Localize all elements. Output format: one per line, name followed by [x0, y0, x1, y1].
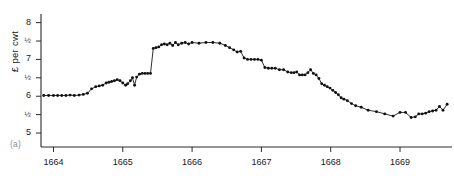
- data-point: [232, 48, 235, 51]
- data-point: [224, 44, 227, 47]
- data-point: [290, 71, 293, 74]
- y-tick-label: 8: [17, 18, 31, 27]
- data-point: [263, 66, 266, 69]
- data-point: [295, 70, 298, 73]
- data-point: [101, 84, 104, 87]
- data-point: [205, 41, 208, 44]
- data-point: [86, 92, 89, 95]
- series-line: [44, 42, 447, 117]
- x-tick-label: 1666: [172, 158, 212, 167]
- data-point: [270, 67, 273, 70]
- data-point: [133, 84, 136, 87]
- data-point: [116, 78, 119, 81]
- data-point: [331, 89, 334, 92]
- data-point: [65, 94, 68, 97]
- data-point: [293, 71, 296, 74]
- data-point: [392, 115, 395, 118]
- data-point: [47, 94, 50, 97]
- x-tick-label: 1665: [103, 158, 143, 167]
- data-point: [446, 103, 449, 106]
- data-point: [90, 87, 93, 90]
- data-point: [350, 102, 353, 105]
- data-point: [286, 70, 289, 73]
- data-point: [274, 67, 277, 70]
- data-point: [94, 85, 97, 88]
- y-tick-label: ½: [17, 37, 31, 45]
- data-point: [228, 46, 231, 49]
- data-point: [256, 58, 259, 61]
- data-point: [52, 94, 55, 97]
- data-point: [187, 43, 190, 46]
- data-point: [428, 110, 431, 113]
- data-point: [126, 82, 129, 85]
- data-point: [141, 72, 144, 75]
- data-point: [119, 79, 122, 82]
- data-point: [144, 72, 147, 75]
- data-point: [253, 58, 256, 61]
- data-point: [73, 94, 76, 97]
- x-tick-label: 1667: [241, 158, 281, 167]
- data-point: [301, 73, 304, 76]
- data-point: [82, 93, 85, 96]
- data-point: [113, 79, 116, 82]
- data-point: [177, 43, 180, 46]
- data-point: [131, 76, 134, 79]
- data-point: [360, 106, 363, 109]
- data-point: [404, 111, 407, 114]
- data-point: [417, 112, 420, 115]
- data-point: [218, 42, 221, 45]
- line-chart-plot: [0, 0, 454, 183]
- data-point: [69, 94, 72, 97]
- data-point: [421, 112, 424, 115]
- data-point: [146, 72, 149, 75]
- data-point: [168, 42, 171, 45]
- data-point: [198, 42, 201, 45]
- data-point: [282, 68, 285, 71]
- data-point: [163, 43, 166, 46]
- x-tick-label: 1668: [311, 158, 351, 167]
- data-point: [435, 109, 438, 112]
- data-point: [326, 85, 329, 88]
- y-tick-label: 5: [17, 128, 31, 137]
- data-point: [320, 82, 323, 85]
- data-point: [121, 82, 124, 85]
- data-point: [346, 99, 349, 102]
- data-point: [367, 109, 370, 112]
- data-point: [211, 41, 214, 44]
- data-point: [340, 96, 343, 99]
- data-point: [250, 58, 253, 61]
- data-point: [329, 87, 332, 90]
- data-point: [414, 115, 417, 118]
- data-point: [184, 41, 187, 44]
- data-point: [424, 112, 427, 115]
- data-point: [442, 109, 445, 112]
- data-point: [298, 73, 301, 76]
- data-point: [334, 91, 337, 94]
- data-point: [107, 81, 110, 84]
- data-point: [60, 94, 63, 97]
- data-point: [323, 84, 326, 87]
- data-point: [337, 93, 340, 96]
- data-point: [129, 79, 132, 82]
- chart-container: £ per cwt (a) 8½7½6½5 166416651666166716…: [0, 0, 454, 183]
- data-point: [438, 105, 441, 108]
- data-point: [149, 72, 152, 75]
- data-point: [110, 80, 113, 83]
- data-point: [152, 47, 155, 50]
- data-point: [155, 46, 158, 49]
- y-tick-label: ½: [17, 74, 31, 82]
- data-point: [138, 73, 141, 76]
- data-point: [410, 116, 413, 119]
- data-point: [399, 111, 402, 114]
- data-point: [157, 45, 160, 48]
- y-tick-label: 7: [17, 54, 31, 63]
- data-point: [78, 94, 81, 97]
- data-point: [56, 94, 59, 97]
- data-point: [278, 68, 281, 71]
- y-tick-label: 6: [17, 91, 31, 100]
- data-point: [342, 98, 345, 101]
- data-point: [98, 84, 101, 87]
- data-point: [315, 73, 318, 76]
- data-point: [171, 44, 174, 47]
- data-point: [174, 41, 177, 44]
